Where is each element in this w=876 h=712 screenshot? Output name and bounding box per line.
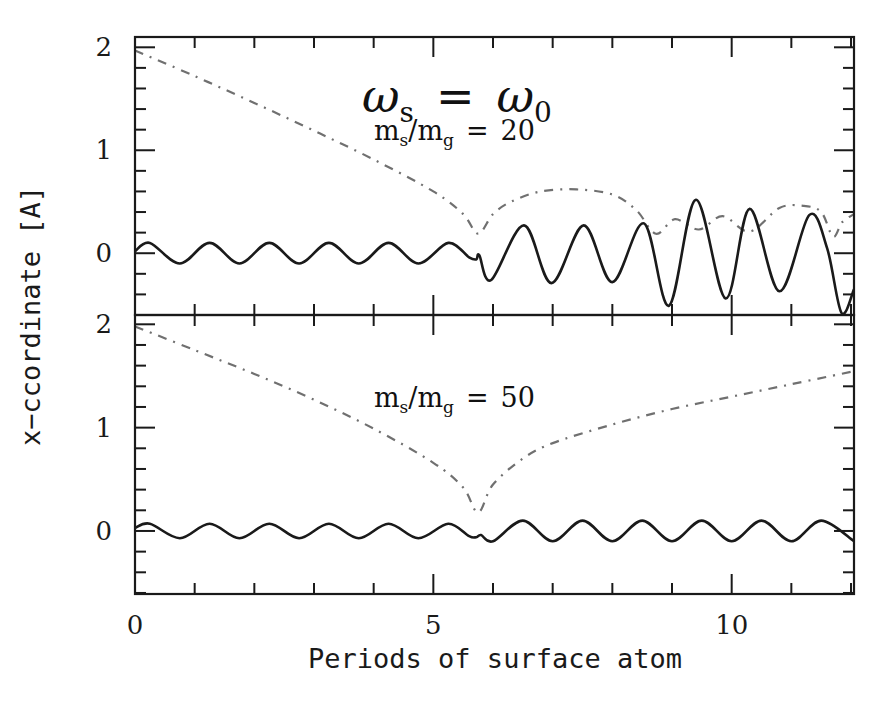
figure: 012 ωs=ω0 ms/mg=20 012 ms/mg=50 0510 Per… [0, 0, 876, 712]
y-tick-label: 2 [95, 32, 112, 62]
bottom-panel-frame [135, 315, 854, 594]
top-y-tick-labels: 012 [95, 32, 112, 268]
y-tick-label: 2 [95, 309, 112, 339]
y-tick-label: 0 [95, 238, 112, 268]
bottom-mass-ratio-annotation: ms/mg=50 [374, 382, 535, 417]
top-dash-dot-curve [135, 50, 854, 236]
bottom-dash-dot-curve [135, 326, 851, 512]
x-tick-labels: 0510 [127, 610, 749, 640]
x-tick-label: 10 [715, 610, 748, 640]
top-solid-curve [135, 200, 854, 314]
x-tick-label: 0 [127, 610, 144, 640]
x-tick-label: 5 [425, 610, 442, 640]
bottom-axis-ticks [135, 315, 854, 594]
y-tick-label: 0 [95, 516, 112, 546]
y-tick-label: 1 [95, 413, 112, 443]
bottom-solid-curve [135, 521, 854, 542]
x-axis-title: Periods of surface atom [308, 643, 682, 674]
y-tick-label: 1 [95, 135, 112, 165]
bottom-y-tick-labels: 012 [95, 309, 112, 546]
panel-top: 012 ωs=ω0 ms/mg=20 [95, 32, 854, 315]
panel-bottom: 012 ms/mg=50 [95, 309, 854, 594]
y-axis-title: x−ccordinate [A] [15, 186, 46, 446]
